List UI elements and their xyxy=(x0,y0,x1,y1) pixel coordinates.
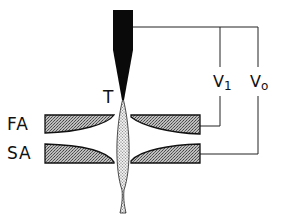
second-anode-right xyxy=(131,144,200,163)
v1-label-main: V xyxy=(213,72,224,91)
tip-label: T xyxy=(103,89,113,106)
electron-gun-diagram xyxy=(0,0,282,215)
second-anode-left xyxy=(45,144,114,163)
v0-wire-bottom xyxy=(200,96,258,154)
v1-label-sub: 1 xyxy=(224,79,232,93)
v0-label-main: V xyxy=(250,72,261,91)
v1-label: V1 xyxy=(213,74,232,90)
v1-wire-bottom xyxy=(200,96,220,126)
emitter-tip xyxy=(113,10,133,100)
first-anode-label: FA xyxy=(7,116,29,133)
electron-beam xyxy=(117,98,129,213)
first-anode-left xyxy=(45,115,114,133)
v0-label-sub: o xyxy=(261,79,268,93)
v0-label: Vo xyxy=(250,74,268,90)
circuit-wires xyxy=(133,27,258,154)
second-anode-label: SA xyxy=(7,145,32,162)
first-anode-right xyxy=(131,115,200,134)
